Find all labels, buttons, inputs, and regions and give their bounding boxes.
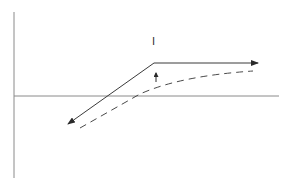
diagram-canvas	[0, 0, 283, 187]
dashed-curve	[80, 71, 253, 128]
solid-line-left-segment	[68, 63, 154, 124]
label-i: I	[152, 36, 155, 47]
